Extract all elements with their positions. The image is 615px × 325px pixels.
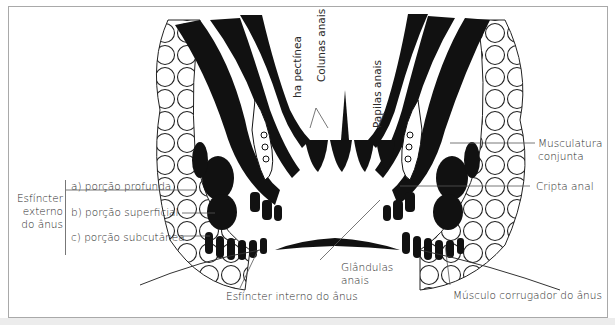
- label-musculo-corrugador: Músculo corrugador do ânus: [453, 289, 602, 302]
- anal-canal-illustration: [0, 0, 615, 325]
- label-esfincter-interno: Esfíncter interno do ânus: [226, 290, 358, 303]
- label-porcao-profunda: a) porção profunda: [71, 180, 171, 193]
- bracket-line: [65, 180, 66, 255]
- label-line: externo: [13, 205, 63, 218]
- label-papilas-anais: Papilas anais: [371, 60, 383, 128]
- anal-verge: [275, 238, 400, 250]
- label-line: Glândulas: [341, 261, 393, 274]
- label-porcao-subcutanea: c) porção subcutânea: [71, 231, 185, 244]
- label-line: Musculatura: [538, 137, 603, 150]
- label-line: conjunta: [538, 150, 603, 163]
- label-glandulas-anais: Glândulas anais: [341, 261, 393, 287]
- label-linha-pectinea: ha pectínea: [291, 36, 303, 98]
- label-line: do ânus: [13, 218, 63, 231]
- label-colunas-anais: Colunas anais: [315, 9, 327, 82]
- label-esfincter-externo: Esfíncter externo do ânus: [13, 192, 63, 231]
- label-line: Esfíncter: [13, 192, 63, 205]
- label-cripta-anal: Cripta anal: [536, 180, 594, 193]
- label-musculatura-conjunta: Musculatura conjunta: [538, 137, 603, 163]
- label-line: anais: [341, 274, 393, 287]
- label-porcao-superficial: b) porção superficial: [71, 206, 178, 219]
